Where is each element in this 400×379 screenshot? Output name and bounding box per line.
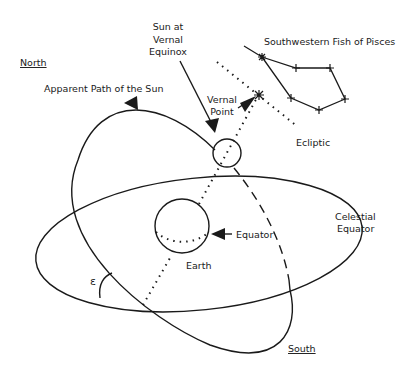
path-direction-arrowhead xyxy=(124,96,138,110)
celestial-sphere-diagram: North Apparent Path of the Sun Sun at Ve… xyxy=(0,0,400,379)
sun-label-line3: Equinox xyxy=(149,46,187,57)
earth-equator-dotted xyxy=(156,232,209,242)
earth-label: Earth xyxy=(186,260,211,271)
north-label: North xyxy=(20,57,47,68)
star-icon xyxy=(341,95,349,103)
sun-label-line1: Sun at xyxy=(153,21,184,32)
celestial-equator-line1: Celestial xyxy=(335,211,376,222)
sun-arrowhead xyxy=(205,118,219,133)
pisces-constellation xyxy=(244,46,345,110)
ecliptic-label: Ecliptic xyxy=(296,137,330,148)
celestial-equator-line2: Equator xyxy=(337,223,374,234)
epsilon-label: ε xyxy=(90,275,96,288)
vernal-point-line2: Point xyxy=(210,106,234,117)
ecliptic-ellipse-back xyxy=(234,168,289,280)
earth-circle xyxy=(155,199,209,253)
equator-label: Equator xyxy=(236,229,273,240)
celestial-equator-ellipse xyxy=(29,161,369,327)
pisces-label: Southwestern Fish of Pisces xyxy=(264,36,395,47)
vernal-arrowhead xyxy=(240,96,256,112)
sun-circle xyxy=(213,139,241,167)
obliquity-arc xyxy=(100,273,112,298)
star-icon xyxy=(287,94,295,102)
apparent-path-label: Apparent Path of the Sun xyxy=(44,83,163,94)
sun-label-line2: Vernal xyxy=(153,34,183,45)
star-icon xyxy=(292,64,300,72)
vernal-point-star-icon xyxy=(254,90,264,100)
star-icon xyxy=(326,64,334,72)
sightline-dotted xyxy=(143,94,259,305)
equator-arrowhead xyxy=(211,228,225,240)
south-label: South xyxy=(288,343,316,354)
pisces-stars xyxy=(254,53,349,114)
star-icon xyxy=(315,106,323,114)
star-icon xyxy=(258,53,266,61)
vernal-point-line1: Vernal xyxy=(207,94,237,105)
